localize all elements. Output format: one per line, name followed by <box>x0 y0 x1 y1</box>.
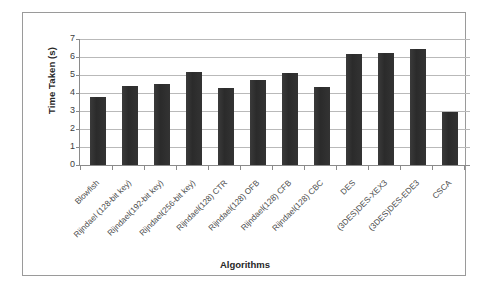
y-tick-label: 0 <box>51 160 75 169</box>
y-tick-label: 4 <box>51 88 75 97</box>
bar <box>218 88 234 165</box>
x-axis-tick <box>144 166 145 170</box>
x-axis-tick <box>208 166 209 170</box>
bar <box>90 97 106 165</box>
x-axis-tick <box>368 166 369 170</box>
x-axis-tick <box>400 166 401 170</box>
bar <box>378 53 394 165</box>
x-axis-tick <box>432 166 433 170</box>
bar <box>410 49 426 165</box>
y-tick-label: 7 <box>51 34 75 43</box>
bar <box>122 86 138 165</box>
bar <box>314 87 330 165</box>
bar <box>442 112 458 165</box>
x-axis-tick <box>304 166 305 170</box>
x-axis-title: Algorithms <box>23 259 467 270</box>
x-axis-tick <box>464 166 465 170</box>
x-axis-tick <box>112 166 113 170</box>
y-tick-label: 3 <box>51 106 75 115</box>
chart-frame: Time Taken (s) 7 6 5 4 3 2 1 0 <box>22 12 466 276</box>
x-axis-tick <box>176 166 177 170</box>
y-tick-label: 5 <box>51 70 75 79</box>
x-axis-tick <box>80 166 81 170</box>
x-axis-tick <box>272 166 273 170</box>
bar <box>346 54 362 165</box>
y-tick-label: 6 <box>51 52 75 61</box>
bar <box>186 72 202 165</box>
plot-area <box>80 39 470 165</box>
bar <box>282 73 298 165</box>
x-axis-tick <box>336 166 337 170</box>
x-axis-tick <box>240 166 241 170</box>
y-tick-label: 1 <box>51 142 75 151</box>
axis-baseline <box>80 165 470 166</box>
bar <box>154 84 170 165</box>
bar <box>250 80 266 166</box>
y-tick-label: 2 <box>51 124 75 133</box>
gridline <box>80 39 470 40</box>
